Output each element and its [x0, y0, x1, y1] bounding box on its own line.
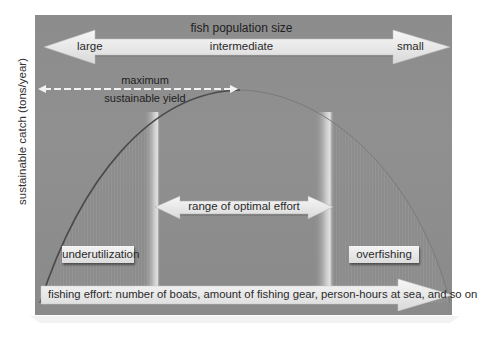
population-small-label: small	[397, 40, 424, 52]
effort-arrow-shadow	[41, 311, 451, 315]
overfishing-zone-label: overfishing	[349, 246, 419, 263]
optimal-range-label: range of optimal effort	[155, 200, 333, 212]
y-axis-label: sustainable catch (tons/year)	[16, 58, 28, 205]
msy-label-line2: sustainable yield	[80, 92, 210, 104]
underutilization-zone-label: underutilization	[62, 246, 134, 263]
x-axis-label: fishing effort: number of boats, amount …	[48, 288, 477, 300]
msy-label-line1: maximum	[90, 74, 200, 86]
population-size-title: fish population size	[0, 21, 483, 35]
msy-arrowhead-right	[230, 85, 238, 93]
curve-area	[35, 85, 455, 305]
msy-arrowhead-left	[38, 85, 46, 93]
